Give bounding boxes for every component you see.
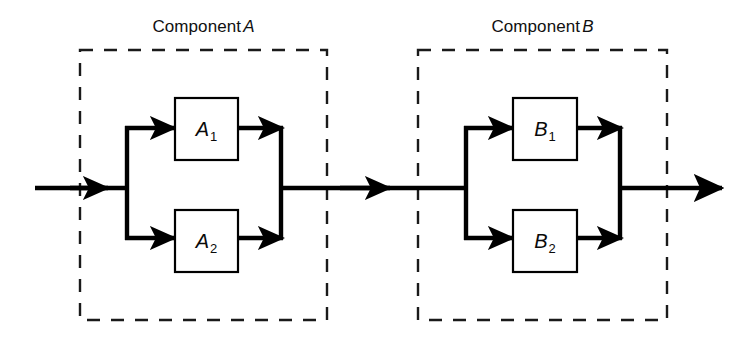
component-b-label-id: B [580, 17, 593, 36]
component-b-label-prefix: Component [491, 17, 580, 36]
block-a1-letter: A [196, 118, 209, 140]
block-a2-letter: A [196, 230, 209, 252]
block-a1-subscript: 1 [209, 129, 217, 144]
block-a1-label: A1 [175, 119, 238, 143]
component-a-boundary [80, 50, 327, 320]
reliability-block-diagram: ComponentA ComponentB A1 A2 B1 B2 [0, 0, 754, 344]
component-a-label: ComponentA [80, 17, 327, 37]
block-b1-label: B1 [513, 119, 577, 143]
block-b2-letter: B [534, 230, 547, 252]
component-b-boundary [418, 50, 667, 320]
block-a2-subscript: 2 [209, 241, 217, 256]
component-a-label-id: A [241, 17, 254, 36]
block-b1-subscript: 1 [548, 129, 556, 144]
component-a-label-prefix: Component [152, 17, 241, 36]
block-a2-label: A2 [175, 231, 238, 255]
diagram-canvas [0, 0, 754, 344]
block-b2-subscript: 2 [548, 241, 556, 256]
component-b-label: ComponentB [418, 17, 667, 37]
block-b2-label: B2 [513, 231, 577, 255]
block-b1-letter: B [534, 118, 547, 140]
